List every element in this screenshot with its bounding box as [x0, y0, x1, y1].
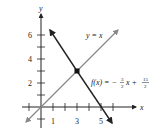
x-axis-label: x: [139, 103, 144, 112]
svg-text:3: 3: [121, 77, 124, 82]
svg-text:x +: x +: [125, 78, 137, 87]
f-line-label: f(x) = − 3 2 x + 15 2: [91, 77, 149, 89]
x-tick-label-3: 3: [75, 117, 79, 126]
y-axis-label: y: [38, 4, 43, 13]
svg-text:2: 2: [121, 84, 124, 89]
svg-text:15: 15: [143, 77, 149, 82]
graph: 1 3 5 2 4 6 x y y = x f(x) = − 3 2 x + 1…: [0, 0, 156, 139]
y-tick-label-6: 6: [28, 31, 32, 40]
y-tick-label-2: 2: [28, 79, 32, 88]
x-tick-label-5: 5: [99, 117, 103, 126]
f-line-upper: [50, 30, 77, 71]
svg-text:2: 2: [144, 84, 147, 89]
svg-text:f(x) = −: f(x) = −: [91, 78, 117, 87]
intersection-point: [75, 69, 80, 74]
y-tick-label-4: 4: [28, 55, 32, 64]
identity-line: [26, 107, 41, 122]
x-tick-label-1: 1: [51, 117, 55, 126]
identity-line-label: y = x: [85, 31, 103, 40]
